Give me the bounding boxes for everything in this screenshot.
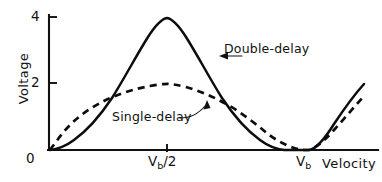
single-delay-arrow-icon <box>204 100 211 110</box>
origin-label: 0 <box>26 152 35 166</box>
x-tick-label-vb: Vb <box>296 155 311 171</box>
y-tick-label-2: 2 <box>31 76 40 90</box>
x-tick-label-vb-half: Vb/2 <box>148 155 176 171</box>
curve-double-delay <box>50 18 364 150</box>
plot-canvas <box>0 0 382 182</box>
vb-half-tail: /2 <box>163 153 176 169</box>
vb-half-main: V <box>148 153 157 169</box>
series-label-double-delay: Double-delay <box>224 43 309 56</box>
series-label-single-delay: Single-delay <box>112 111 192 124</box>
y-tick-label-4: 4 <box>31 10 40 24</box>
vb-main: V <box>296 153 305 169</box>
y-axis-title: Voltage <box>17 44 30 114</box>
x-axis-title: Velocity <box>322 157 376 170</box>
vb-subscript: b <box>305 160 311 171</box>
voltage-velocity-figure: Voltage 4 2 0 Vb/2 Vb Velocity Double-de… <box>0 0 382 182</box>
